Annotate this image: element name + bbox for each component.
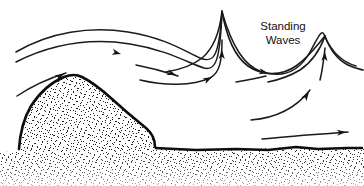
diagram-root: Standing Waves [0, 0, 364, 186]
arrowhead-lee-rotor-streamline-0 [301, 90, 311, 101]
standing-waves-label-line1: Standing [260, 20, 305, 32]
wave-crest-2-right [325, 36, 363, 70]
airflow-diagram: Standing Waves [0, 0, 364, 186]
arrowhead-lower-mid-streamline-0 [203, 74, 214, 84]
streamline-lee-crest2-riser [320, 48, 325, 80]
ground-surface [0, 147, 364, 186]
ground-fill-extra [0, 147, 364, 186]
arrowhead-lee-crest2-riser-0 [321, 52, 328, 61]
streamline-crest-2-descent [325, 37, 356, 66]
arrowhead-lower-mid-streamline-1 [219, 50, 226, 59]
standing-waves-label-line2: Waves [266, 34, 301, 46]
arrowhead-upper-streamline-2-0 [112, 49, 122, 57]
mountain-ridge [19, 75, 155, 152]
streamline-trough-lower-streamline [236, 76, 266, 82]
mountain-fill-extra [19, 75, 155, 152]
ground-surface-line [155, 147, 362, 150]
streamline-upper-streamline-2 [16, 12, 222, 68]
streamline-surface-streamline [262, 132, 348, 139]
standing-waves-label: Standing Waves [260, 20, 305, 46]
streamline-upper-streamline-1 [16, 12, 222, 60]
wave-crest-1-left [166, 11, 222, 72]
streamline-lee-rotor-streamline [251, 90, 310, 120]
